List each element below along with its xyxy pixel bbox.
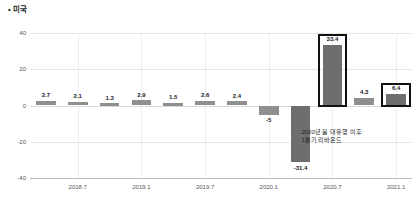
y-axis-tick-label: -20 [0, 139, 26, 145]
bar-value-label: 2.4 [217, 93, 257, 99]
highlight-box [318, 34, 348, 108]
vertical-gridline [205, 33, 206, 178]
y-axis-tick-label: 40 [0, 30, 26, 36]
bar [36, 101, 56, 106]
bar [259, 106, 279, 115]
gridline-20 [30, 69, 412, 70]
bar [163, 103, 183, 106]
x-axis-tick-label: 2021.1 [376, 184, 416, 190]
x-axis-tick-label: 2020.7 [312, 184, 352, 190]
bar [227, 101, 247, 105]
gridline-0 [30, 106, 412, 107]
gridline-40 [30, 33, 412, 34]
vertical-gridline [78, 33, 79, 178]
x-axis-tick-label: 2019.1 [121, 184, 161, 190]
bar [195, 101, 215, 106]
gridline-neg40 [30, 178, 412, 179]
x-axis-tick-label: 2019.7 [185, 184, 225, 190]
bar-value-label: -31.4 [281, 165, 321, 171]
x-axis-tick-label: 2018.7 [58, 184, 98, 190]
bar-value-label: -5 [249, 117, 289, 123]
plot-area [30, 33, 412, 178]
bar [100, 103, 120, 106]
vertical-gridline [141, 33, 142, 178]
bar [132, 100, 152, 105]
y-axis-tick-label: 0 [0, 103, 26, 109]
y-axis-tick-label: 20 [0, 66, 26, 72]
chart-annotation: 2020년 봄 대유행 이후 1분기 리바운드 [301, 128, 361, 145]
highlight-box [381, 83, 411, 108]
chart-root: • 미국 40200-20-402018.72019.12019.72020.1… [0, 0, 418, 202]
bar [354, 98, 374, 106]
bar [68, 102, 88, 106]
y-axis-tick-label: -40 [0, 175, 26, 181]
chart-title: • 미국 [8, 3, 28, 14]
x-axis-tick-label: 2020.1 [249, 184, 289, 190]
